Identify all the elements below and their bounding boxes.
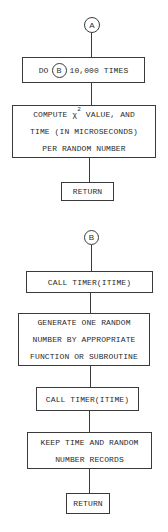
compute-line-2: TIME (IN MICROSECONDS): [30, 123, 138, 140]
generate-line-3: FUNCTION OR SUBROUTINE: [30, 348, 138, 365]
loop-prefix: DO: [39, 66, 49, 75]
return-box-a: RETURN: [61, 182, 114, 201]
flow-line: [91, 245, 92, 271]
connector-a: A: [84, 17, 100, 33]
connector-b-inline: B: [52, 63, 67, 78]
flow-line: [90, 293, 91, 313]
compute-box: COMPUTE χ2 VALUE, AND TIME (IN MICROSECO…: [12, 105, 156, 158]
flow-line: [91, 33, 92, 57]
timer-box-1: CALL TIMER(ITIME): [26, 271, 153, 293]
compute-line-3: PER RANDOM NUMBER: [42, 140, 125, 157]
connector-b: B: [84, 230, 99, 245]
timer-box-2: CALL TIMER(ITIME): [36, 387, 139, 411]
flow-line: [89, 469, 90, 493]
records-box: KEEP TIME AND RANDOM NUMBER RECORDS: [27, 432, 152, 469]
flow-line: [90, 366, 91, 387]
flow-line: [91, 83, 92, 105]
flow-line: [89, 410, 90, 432]
flow-line: [89, 158, 90, 182]
loop-suffix: 10,000 TIMES: [70, 66, 129, 75]
generate-box: GENERATE ONE RANDOM NUMBER BY APPROPRIAT…: [18, 313, 150, 366]
compute-line-1: COMPUTE χ2 VALUE, AND: [33, 106, 135, 123]
records-line-2: NUMBER RECORDS: [55, 451, 124, 468]
loop-text: DOB10,000 TIMES: [39, 62, 129, 79]
return-box-b: RETURN: [66, 493, 110, 514]
records-line-1: KEEP TIME AND RANDOM: [40, 434, 138, 451]
generate-line-2: NUMBER BY APPROPRIATE: [33, 331, 136, 348]
generate-line-1: GENERATE ONE RANDOM: [37, 314, 130, 331]
loop-box: DOB10,000 TIMES: [22, 57, 145, 83]
